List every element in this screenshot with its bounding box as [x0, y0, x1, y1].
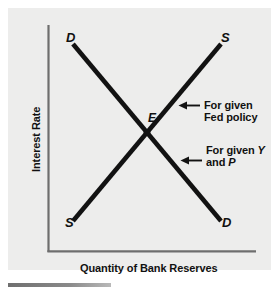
demand-annotation-line1-text: For given: [206, 144, 258, 156]
demand-annotation-line2: and P: [206, 156, 235, 168]
supply-annotation-line2: Fed policy: [204, 111, 257, 123]
demand-annotation-line1-symbol: Y: [258, 144, 265, 156]
demand-annotation-line2-symbol: P: [228, 156, 235, 168]
demand-curve-bottom-label: D: [222, 216, 231, 231]
supply-annotation-line1: For given: [204, 99, 253, 111]
demand-annotation-line1: For given Y: [206, 144, 265, 156]
demand-annotation-arrow-icon: [181, 157, 203, 165]
y-axis-title: Interest Rate: [30, 107, 42, 172]
equilibrium-point-marker: [144, 129, 151, 136]
caption-rule: [8, 283, 111, 287]
demand-curve-top-label: D: [66, 31, 75, 46]
x-axis-title: Quantity of Bank Reserves: [80, 262, 218, 274]
demand-annotation-line2-text: and: [206, 156, 228, 168]
supply-curve-bottom-label: S: [65, 216, 74, 231]
equilibrium-point-label: E: [148, 112, 156, 125]
supply-annotation-arrow-icon: [179, 102, 201, 110]
supply-curve-top-label: S: [221, 31, 230, 46]
